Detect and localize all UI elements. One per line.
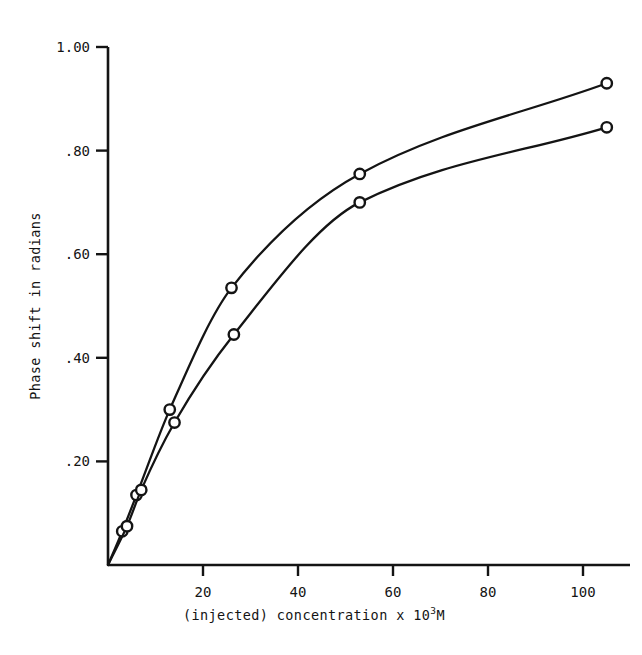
y-tick-label: .20 (65, 453, 90, 469)
data-point-marker (602, 122, 612, 132)
data-point-marker (602, 78, 612, 88)
x-tick-label: 60 (385, 584, 402, 600)
y-tick-label: 1.00 (56, 39, 90, 55)
x-axis-title-trail: M (436, 607, 445, 623)
x-tick-label: 100 (570, 584, 595, 600)
data-point-marker (122, 521, 132, 531)
data-point-marker (226, 283, 236, 293)
y-tick-label: .40 (65, 350, 90, 366)
data-point-marker (169, 417, 179, 427)
phase-shift-concentration-chart: .20.40.60.801.00 20406080100 Phase shift… (0, 0, 642, 655)
data-point-marker (165, 404, 175, 414)
chart-background (0, 0, 642, 655)
y-axis-title: Phase shift in radians (27, 212, 43, 400)
x-axis-title-lead: (injected) concentration x 10 (183, 607, 430, 623)
y-tick-label: .60 (65, 246, 90, 262)
data-point-marker (355, 197, 365, 207)
y-tick-label: .80 (65, 143, 90, 159)
data-point-marker (136, 485, 146, 495)
data-point-marker (229, 329, 239, 339)
x-tick-label: 40 (290, 584, 307, 600)
x-tick-label: 20 (195, 584, 212, 600)
x-axis-title: (injected) concentration x 103M (183, 605, 445, 623)
x-tick-label: 80 (480, 584, 497, 600)
data-point-marker (355, 169, 365, 179)
